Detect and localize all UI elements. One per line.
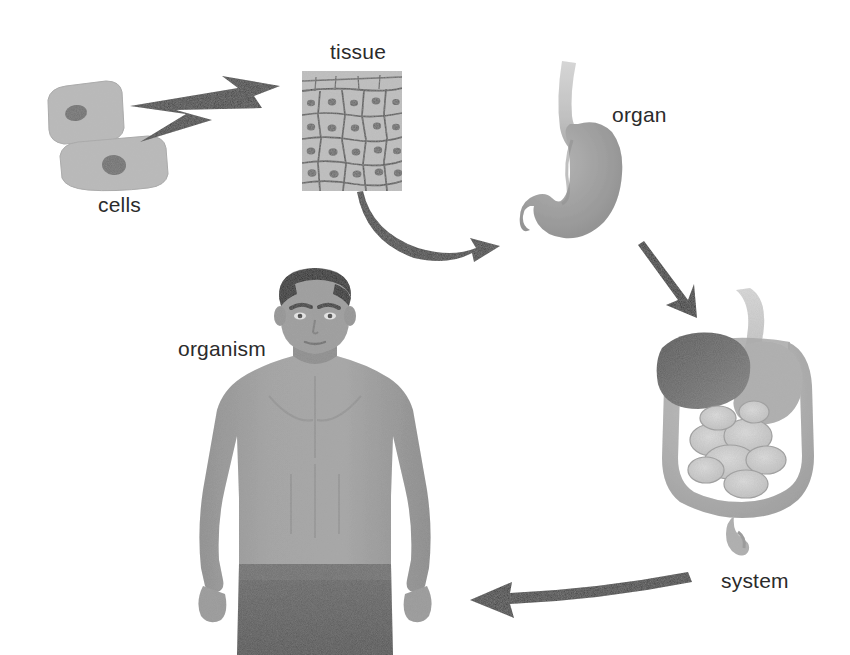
cell-lower <box>60 136 168 191</box>
cells-illustration <box>44 78 179 193</box>
organism-human-illustration <box>195 268 435 655</box>
biological-organization-diagram: cells tissue <box>0 0 850 655</box>
label-cells: cells <box>98 194 141 215</box>
organ-stomach-illustration <box>520 58 630 258</box>
tissue-illustration <box>302 71 402 191</box>
arrow-system-to-organism <box>470 572 692 618</box>
label-system: system <box>721 570 789 591</box>
label-tissue: tissue <box>330 41 386 62</box>
label-organism: organism <box>178 338 266 359</box>
label-organ: organ <box>612 104 667 125</box>
arrow-tissue-to-organ <box>357 191 500 262</box>
cell-upper <box>48 81 124 144</box>
system-digestive-illustration <box>650 288 830 556</box>
